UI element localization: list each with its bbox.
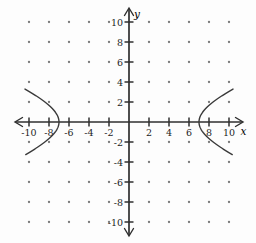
grid-dot (148, 221, 150, 223)
y-axis-label: y (133, 8, 141, 20)
grid-dot (48, 161, 50, 163)
grid-dot (208, 201, 210, 203)
grid-dot (148, 181, 150, 183)
grid-dot (228, 181, 230, 183)
grid-dot (48, 21, 50, 23)
grid-dot (208, 161, 210, 163)
grid-dot (68, 101, 70, 103)
grid-dot (68, 41, 70, 43)
grid-dot (48, 181, 50, 183)
y-tick-label: 8 (117, 37, 123, 48)
grid-dot (148, 41, 150, 43)
grid-dot (48, 81, 50, 83)
grid-dot (208, 81, 210, 83)
grid-dot (108, 21, 110, 23)
grid-dot (228, 201, 230, 203)
x-tick-label: 6 (186, 127, 192, 138)
grid-dot (188, 41, 190, 43)
y-tick-label: 10 (111, 17, 123, 28)
grid-dot (208, 181, 210, 183)
grid-dot (28, 61, 30, 63)
grid-dot (88, 181, 90, 183)
y-tick-label: -10 (108, 217, 123, 228)
grid-dot (188, 21, 190, 23)
x-tick-label: 10 (223, 127, 235, 138)
grid-dot (28, 41, 30, 43)
grid-dot (108, 201, 110, 203)
grid-dot (168, 181, 170, 183)
grid-dot (228, 61, 230, 63)
grid-dot (108, 141, 110, 143)
grid-dot (188, 181, 190, 183)
grid-dot (148, 201, 150, 203)
grid-dot (88, 201, 90, 203)
grid-dot (148, 61, 150, 63)
y-tick-label: -8 (114, 197, 123, 208)
grid-dot (88, 61, 90, 63)
grid-dot (208, 61, 210, 63)
grid-dot (168, 101, 170, 103)
grid-dot (168, 201, 170, 203)
grid-dot (68, 61, 70, 63)
grid-dot (168, 221, 170, 223)
grid-dot (188, 81, 190, 83)
grid-dot (88, 101, 90, 103)
grid-dot (28, 181, 30, 183)
x-axis-label: x (241, 125, 247, 137)
grid-dot (208, 141, 210, 143)
x-tick-label: -6 (64, 127, 73, 138)
grid-dot (148, 21, 150, 23)
grid-dot (208, 41, 210, 43)
grid-dot (188, 101, 190, 103)
grid-dot (88, 221, 90, 223)
grid-dot (228, 21, 230, 23)
grid-dot (108, 61, 110, 63)
grid-dot (148, 81, 150, 83)
y-tick-label: -2 (114, 137, 123, 148)
grid-dot (88, 161, 90, 163)
hyperbola-graph-figure: -10-8-6-4-2246810108642-2-4-6-8-10xy (0, 0, 256, 243)
y-tick-label: -4 (114, 157, 123, 168)
grid-dot (88, 41, 90, 43)
grid-dot (108, 181, 110, 183)
grid-dot (148, 101, 150, 103)
grid-dot (88, 81, 90, 83)
grid-dot (48, 141, 50, 143)
grid-dot (68, 181, 70, 183)
grid-dot (28, 221, 30, 223)
grid-dot (48, 221, 50, 223)
grid-dot (28, 81, 30, 83)
grid-dot (68, 221, 70, 223)
grid-dot (168, 21, 170, 23)
grid-dot (48, 201, 50, 203)
grid-dot (148, 161, 150, 163)
grid-dot (28, 141, 30, 143)
grid-dot (168, 81, 170, 83)
grid-dot (228, 161, 230, 163)
y-tick-label: 6 (117, 57, 123, 68)
grid-dot (48, 101, 50, 103)
grid-dot (168, 141, 170, 143)
y-tick-label: 2 (117, 97, 123, 108)
grid-dot (68, 141, 70, 143)
grid-dot (28, 101, 30, 103)
grid-dot (108, 41, 110, 43)
grid-dot (68, 161, 70, 163)
grid-dot (108, 81, 110, 83)
grid-dot (188, 201, 190, 203)
grid-dot (28, 161, 30, 163)
grid-dot (208, 101, 210, 103)
grid-dot (188, 141, 190, 143)
x-tick-label: -2 (104, 127, 113, 138)
grid-dot (228, 141, 230, 143)
x-tick-label: -4 (84, 127, 93, 138)
grid-dot (168, 41, 170, 43)
grid-dot (208, 221, 210, 223)
grid-dot (228, 41, 230, 43)
grid-dot (228, 81, 230, 83)
x-tick-label: 2 (146, 127, 152, 138)
graph-canvas: -10-8-6-4-2246810108642-2-4-6-8-10xy (0, 0, 256, 243)
grid-dot (28, 201, 30, 203)
x-tick-label: 4 (166, 127, 172, 138)
grid-dot (148, 141, 150, 143)
